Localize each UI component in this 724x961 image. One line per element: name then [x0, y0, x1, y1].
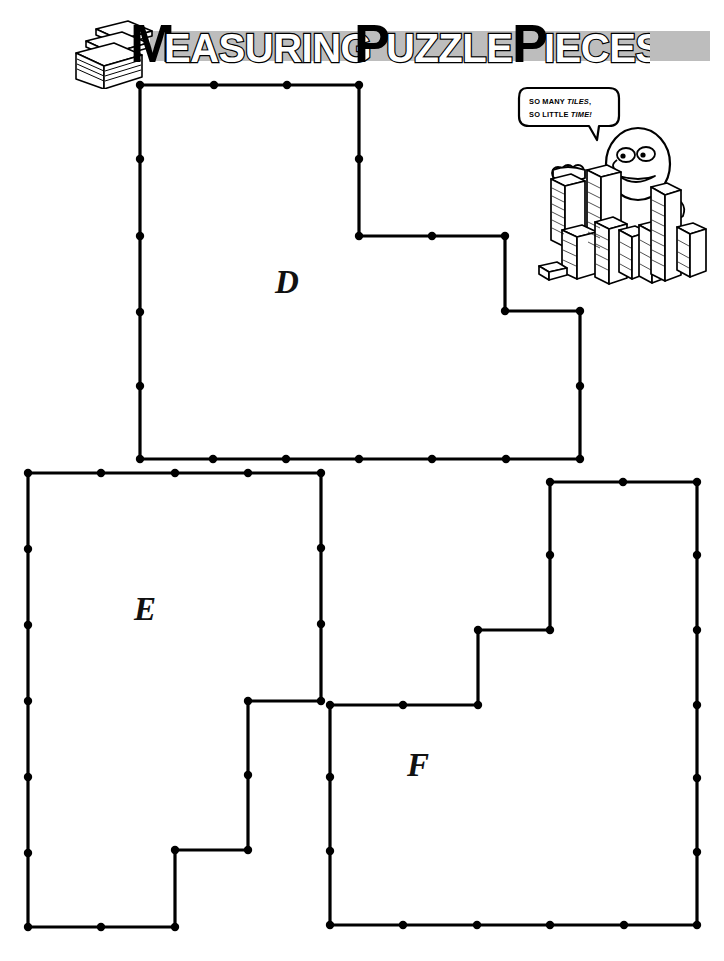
grid-dot — [24, 773, 32, 781]
grid-dot — [317, 697, 325, 705]
grid-dot — [317, 469, 325, 477]
grid-dot — [24, 849, 32, 857]
grid-dot — [355, 232, 363, 240]
grid-dot — [244, 846, 252, 854]
grid-dot — [399, 921, 407, 929]
grid-dot — [546, 626, 554, 634]
grid-dot — [136, 455, 144, 463]
puzzle-piece-f: F — [326, 478, 701, 929]
grid-dot — [546, 551, 554, 559]
grid-dot — [693, 701, 701, 709]
grid-dot — [546, 478, 554, 486]
grid-dot — [502, 455, 510, 463]
grid-dot — [136, 382, 144, 390]
grid-dot — [355, 155, 363, 163]
grid-dot — [576, 307, 584, 315]
grid-dot — [693, 478, 701, 486]
grid-dot — [171, 923, 179, 931]
grid-dot — [24, 469, 32, 477]
grid-dot — [244, 771, 252, 779]
grid-dot — [283, 81, 291, 89]
grid-dot — [355, 81, 363, 89]
grid-dot — [693, 848, 701, 856]
grid-dot — [97, 923, 105, 931]
grid-dot — [244, 469, 252, 477]
grid-dot — [428, 455, 436, 463]
puzzle-piece-d: D — [136, 81, 584, 463]
grid-dot — [317, 620, 325, 628]
grid-dot — [326, 847, 334, 855]
grid-dot — [326, 701, 334, 709]
grid-dot — [355, 455, 363, 463]
grid-dot — [97, 469, 105, 477]
grid-dot — [24, 621, 32, 629]
grid-dot — [576, 382, 584, 390]
worksheet-page: M EASURING P UZZLE P IECES SO MANY TILES… — [0, 0, 724, 961]
grid-dot — [244, 697, 252, 705]
grid-dot — [501, 232, 509, 240]
piece-outline-f — [330, 482, 697, 925]
grid-dot — [576, 455, 584, 463]
grid-dot — [693, 626, 701, 634]
grid-dot — [473, 921, 481, 929]
grid-dot — [428, 232, 436, 240]
grid-dot — [317, 544, 325, 552]
grid-dot — [171, 846, 179, 854]
grid-dot — [209, 455, 217, 463]
puzzle-piece-e: E — [24, 469, 325, 931]
grid-dot — [399, 701, 407, 709]
grid-dot — [171, 469, 179, 477]
grid-dot — [693, 774, 701, 782]
piece-label-e: E — [133, 591, 156, 627]
grid-dot — [326, 921, 334, 929]
piece-label-f: F — [406, 747, 429, 783]
grid-dot — [501, 307, 509, 315]
grid-dot — [136, 81, 144, 89]
grid-dot — [136, 308, 144, 316]
piece-outline-e — [28, 473, 321, 927]
grid-dot — [210, 81, 218, 89]
grid-dot — [619, 478, 627, 486]
grid-dot — [282, 455, 290, 463]
grid-dot — [474, 701, 482, 709]
grid-dot — [693, 921, 701, 929]
grid-dot — [693, 551, 701, 559]
piece-outline-d — [140, 85, 580, 459]
grid-dot — [620, 921, 628, 929]
grid-dot — [136, 155, 144, 163]
puzzle-pieces-diagram: DEF — [0, 0, 724, 961]
grid-dot — [474, 626, 482, 634]
grid-dot — [24, 545, 32, 553]
grid-dot — [136, 232, 144, 240]
grid-dot — [24, 697, 32, 705]
piece-label-d: D — [274, 264, 299, 300]
grid-dot — [546, 921, 554, 929]
grid-dot — [326, 773, 334, 781]
grid-dot — [24, 923, 32, 931]
